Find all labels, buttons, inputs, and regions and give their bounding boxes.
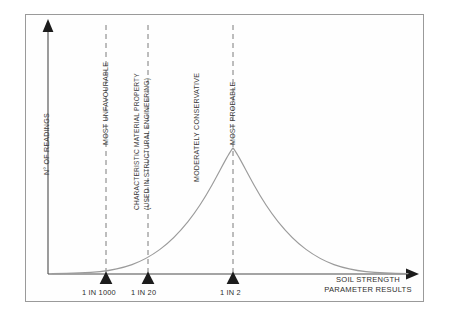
tick-label-1-in-20: 1 IN 20: [131, 288, 156, 297]
marker-triangle-1-in-20: [142, 272, 155, 285]
y-axis-label: N° OF READINGS: [43, 113, 51, 175]
annotation-most-probable: MOST PROBABLE: [229, 82, 237, 145]
tick-label-1-in-2: 1 IN 2: [220, 288, 241, 297]
y-axis-arrow-icon: [43, 19, 54, 32]
tick-label-1-in-1000: 1 IN 1000: [82, 288, 116, 297]
annotation-moderately-conservative: MODERATELY CONSERVATIVE: [193, 73, 201, 182]
x-axis-label-line2: PARAMETER RESULTS: [310, 285, 426, 295]
marker-triangle-1-in-2: [227, 272, 240, 285]
marker-triangle-1-in-1000: [100, 272, 113, 285]
distribution-curve: [52, 148, 408, 274]
figure-root: N° OF READINGS MOST UNFAVOURABLE CHARACT…: [0, 0, 449, 329]
x-axis-label-line1: SOIL STRENGTH: [316, 275, 420, 285]
annotation-characteristic-material-property-sub: (USED IN STRUCTURAL ENGINEERING): [143, 78, 150, 210]
annotation-most-unfavourable: MOST UNFAVOURABLE: [102, 62, 110, 145]
annotation-characteristic-material-property: CHARACTERISTIC MATERIAL PROPERTY: [133, 73, 140, 210]
